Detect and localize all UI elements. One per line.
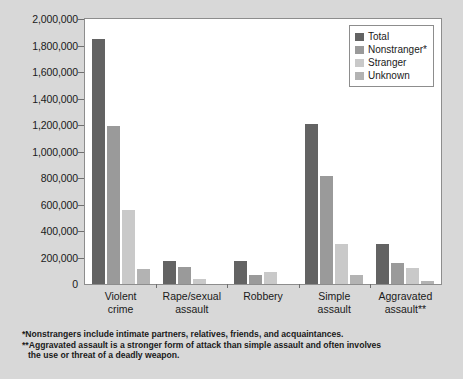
bar-3 [137, 269, 150, 284]
x-category-line: crime [85, 303, 156, 316]
bar-0 [305, 124, 318, 284]
bar-2 [122, 210, 135, 284]
y-tick-label: 2,000,000 [32, 13, 78, 25]
bar-2 [335, 244, 348, 284]
footnote: *Nonstrangers include intimate partners,… [22, 329, 442, 340]
bar-2 [264, 272, 277, 284]
bar-0 [92, 39, 105, 284]
x-category-label: Violentcrime [85, 290, 156, 315]
bar-1 [320, 176, 333, 284]
legend-swatch-icon [355, 33, 364, 41]
x-category-line: Robbery [227, 290, 298, 303]
x-category-line: Aggravated [370, 290, 441, 303]
x-axis: ViolentcrimeRape/sexualassaultRobberySim… [85, 290, 441, 326]
legend-item[interactable]: Unknown [355, 69, 427, 82]
x-tick-mark [227, 284, 228, 288]
x-category-line: Violent [85, 290, 156, 303]
x-category-label: Robbery [227, 290, 298, 303]
y-tick-label: 1,600,000 [32, 66, 78, 78]
bar-3 [350, 275, 363, 284]
legend-label: Stranger [368, 57, 406, 68]
footnote: **Aggravated assault is a stronger form … [22, 340, 442, 361]
x-tick-mark [370, 284, 371, 288]
chart-legend: TotalNonstranger*StrangerUnknown [349, 25, 434, 87]
x-category-line: assault [156, 303, 227, 316]
bar-chart-figure: 0200,000400,000600,000800,0001,000,0001,… [0, 0, 463, 379]
y-tick-label: 200,000 [41, 252, 78, 264]
bar-2 [406, 268, 419, 284]
footnote-text: *Nonstrangers include intimate partners,… [22, 329, 343, 339]
y-tick-label: 1,200,000 [32, 119, 78, 131]
legend-item[interactable]: Nonstranger* [355, 43, 427, 56]
footnote-continuation: the use or threat of a deadly weapon. [22, 350, 442, 361]
x-category-label: Aggravatedassault** [370, 290, 441, 315]
bar-1 [249, 275, 262, 284]
bar-group [85, 19, 156, 284]
footnote-text: **Aggravated assault is a stronger form … [22, 340, 381, 350]
legend-swatch-icon [355, 72, 364, 80]
legend-label: Total [368, 31, 389, 42]
x-category-label: Rape/sexualassault [156, 290, 227, 315]
y-tick-label: 1,400,000 [32, 93, 78, 105]
bar-1 [391, 263, 404, 284]
legend-swatch-icon [355, 59, 364, 67]
y-tick-label: 600,000 [41, 199, 78, 211]
bar-0 [376, 244, 389, 284]
legend-swatch-icon [355, 46, 364, 54]
y-tick-label: 400,000 [41, 225, 78, 237]
x-tick-mark [156, 284, 157, 288]
legend-item[interactable]: Stranger [355, 56, 427, 69]
legend-item[interactable]: Total [355, 30, 427, 43]
x-category-line: assault [299, 303, 370, 316]
x-category-line: Rape/sexual [156, 290, 227, 303]
bar-1 [107, 126, 120, 284]
bar-0 [234, 261, 247, 284]
y-axis: 0200,000400,000600,000800,0001,000,0001,… [0, 18, 78, 285]
bar-group [156, 19, 227, 284]
bar-3 [421, 281, 434, 284]
y-tick-label: 1,000,000 [32, 146, 78, 158]
bar-1 [178, 267, 191, 284]
legend-label: Unknown [368, 70, 410, 81]
x-category-line: assault** [370, 303, 441, 316]
bar-2 [193, 279, 206, 284]
y-tick-label: 1,800,000 [32, 40, 78, 52]
x-category-label: Simpleassault [299, 290, 370, 315]
bar-0 [163, 261, 176, 284]
y-tick-label: 0 [72, 278, 78, 290]
x-category-line: Simple [299, 290, 370, 303]
x-tick-mark [299, 284, 300, 288]
legend-label: Nonstranger* [368, 44, 427, 55]
bar-group [227, 19, 298, 284]
footnotes: *Nonstrangers include intimate partners,… [22, 329, 442, 361]
y-tick-label: 800,000 [41, 172, 78, 184]
